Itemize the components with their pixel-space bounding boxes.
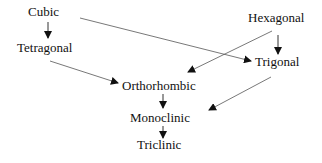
node-tetragonal: Tetragonal [17,41,72,55]
node-cubic: Cubic [28,5,59,19]
edge-tetragonal-orthorhombic [50,61,118,83]
node-trigonal: Trigonal [255,55,299,69]
edge-trigonal-monoclinic [209,77,271,110]
node-hexagonal: Hexagonal [248,11,304,25]
node-orthorhombic: Orthorhombic [122,79,196,93]
node-monoclinic: Monoclinic [130,111,190,125]
node-triclinic: Triclinic [137,138,181,152]
edge-cubic-trigonal [80,18,251,61]
crystal-system-diagram: Cubic Tetragonal Hexagonal Trigonal Orth… [0,0,322,163]
